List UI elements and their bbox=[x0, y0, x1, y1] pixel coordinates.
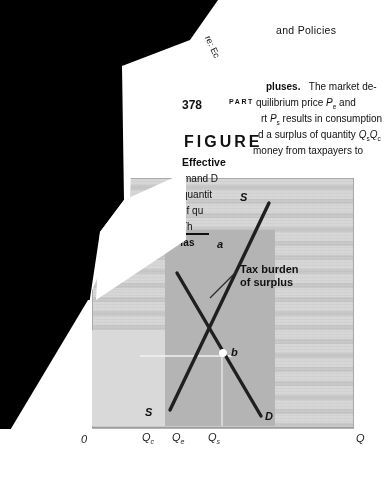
bottom-white-strip bbox=[0, 429, 387, 477]
scanned-page-canvas: S S D a b Tax burden of surplus 0 Qc Qe … bbox=[0, 0, 387, 477]
occlusion-masks bbox=[0, 0, 387, 477]
